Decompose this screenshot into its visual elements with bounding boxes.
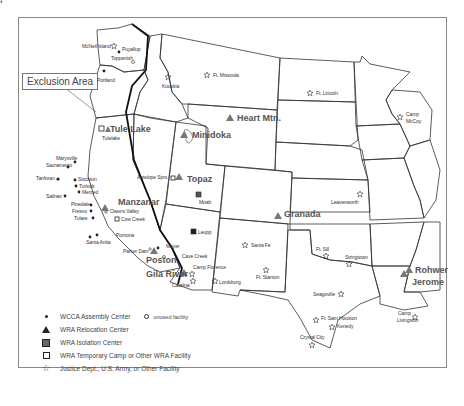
legend-row-wra-relocation: WRA Relocation Center xyxy=(38,323,191,336)
label-toppenish: Toppenish xyxy=(111,56,133,61)
label-stringtown: Stringtown xyxy=(345,255,368,260)
label-pinedale: Pinedale xyxy=(71,202,90,207)
label-leavenworth: Leavenworth xyxy=(331,200,359,205)
label-camp-livingston-1: Camp xyxy=(398,311,411,316)
label-crystal-city: Crystal City xyxy=(300,335,324,340)
label-rohwer: Rohwer xyxy=(415,266,448,275)
label-tule-lake: Tule Lake xyxy=(110,125,151,134)
label-leupp: Leupp xyxy=(198,230,211,235)
label-pomona: Pomona xyxy=(116,233,134,238)
star-icon: ☆ xyxy=(42,364,50,373)
label-sacramento: Sacramento xyxy=(46,163,72,168)
label-camp-florence: Camp Florence xyxy=(193,265,226,270)
label-ft-lincoln: Ft. Lincoln xyxy=(316,91,338,96)
label-poston: Poston xyxy=(146,256,177,265)
legend-unused: unused facility xyxy=(144,314,188,320)
label-heart-mtn: Heart Mtn. xyxy=(237,114,281,123)
label-camp-livingston-2: Livingston xyxy=(397,318,419,323)
label-manzanar: Manzanar xyxy=(118,198,160,207)
label-mayer: Mayer xyxy=(166,244,179,249)
open-circle-icon xyxy=(144,314,149,319)
label-tulelake: Tulelake xyxy=(102,136,120,141)
label-catalina: Catalina xyxy=(172,283,190,288)
label-topaz: Topaz xyxy=(187,175,212,184)
legend-row-justice-army: ☆ Justice Dept., U.S. Army, or Other Fac… xyxy=(38,362,191,375)
label-tanforan: Tanforan xyxy=(36,176,55,181)
filled-dot-icon xyxy=(45,315,48,318)
label-seagoville: Seagoville xyxy=(313,292,335,297)
label-parker-dam: Parker Dam xyxy=(123,249,149,254)
label-jerome: Jerome xyxy=(412,278,444,287)
label-merced: Merced xyxy=(82,190,98,195)
label-fresno: Fresno xyxy=(72,209,87,214)
label-camp-mccoy-1: Camp xyxy=(406,112,419,117)
map-legend: WCCA Assembly Center unused facility WRA… xyxy=(38,310,191,375)
label-camp-mccoy-2: McCoy xyxy=(406,119,421,124)
label-ft-missoula: Ft. Missoula xyxy=(213,73,239,78)
label-granada: Granada xyxy=(284,210,321,219)
filled-triangle-icon xyxy=(42,326,50,333)
label-ft-sill: Ft. Sill xyxy=(316,247,329,252)
label-lordsburg: Lordsburg xyxy=(219,280,241,285)
label-kenedy: Kenedy xyxy=(337,324,353,329)
label-salinas: Salinas xyxy=(46,194,62,199)
label-tulare: Tulare xyxy=(74,216,87,221)
label-puyallup: Puyallup xyxy=(122,47,140,52)
label-minidoka: Minidoka xyxy=(192,131,231,140)
legend-row-wra-temporary: WRA Temporary Camp or Other WRA Facility xyxy=(38,349,191,362)
label-cow-creek: Cow Creek xyxy=(121,217,145,222)
label-ft-stanton: Ft. Stanton xyxy=(256,275,279,280)
exclusion-area-callout: Exclusion Area xyxy=(22,73,98,90)
label-ft-sam-houston: Ft. Sam Houston xyxy=(321,316,357,321)
label-santa-anita: Santa Anita xyxy=(86,240,110,245)
label-moab: Moab xyxy=(199,200,211,205)
label-antelope-springs: Antelope Sprs. xyxy=(137,175,168,180)
unused-facility-markers xyxy=(105,61,166,259)
label-santa-fe: Santa Fe xyxy=(251,243,271,248)
filled-square-icon xyxy=(42,339,50,347)
label-portland: Portland xyxy=(97,78,115,83)
label-cave-creek: Cave Creek xyxy=(182,254,207,259)
legend-row-wcca: WCCA Assembly Center unused facility xyxy=(38,310,191,323)
label-mcneil-island: McNeil Island xyxy=(82,44,111,49)
open-square-icon xyxy=(43,352,50,359)
label-owens-valley: Owens Valley xyxy=(110,209,139,214)
label-gila-river: Gila River xyxy=(146,270,188,279)
label-stockton: Stockton xyxy=(78,177,97,182)
legend-row-wra-isolation: WRA Isolation Center xyxy=(38,336,191,349)
label-kooskia: Kooskia xyxy=(162,84,179,89)
label-marysville: Marysville xyxy=(56,156,77,161)
